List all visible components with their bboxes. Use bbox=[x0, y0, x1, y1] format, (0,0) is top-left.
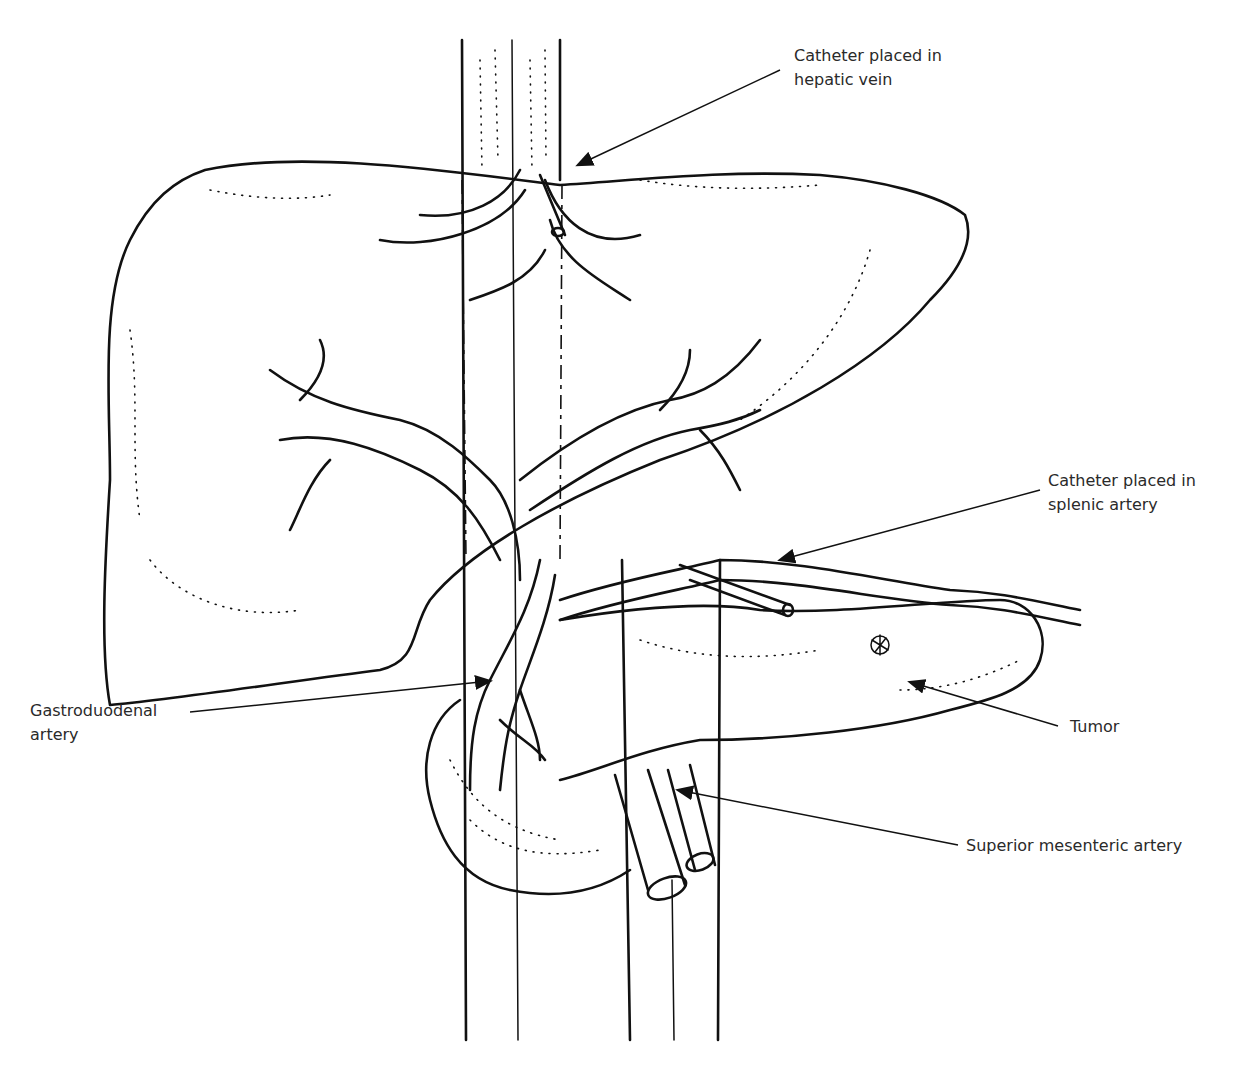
duodenum bbox=[426, 700, 630, 894]
label-superior-mesenteric-artery: Superior mesenteric artery bbox=[966, 834, 1182, 858]
splenic-artery bbox=[560, 560, 1080, 625]
gastroduodenal-artery bbox=[470, 560, 555, 790]
leader-hepatic-vein bbox=[578, 70, 780, 165]
leader-tumor bbox=[910, 682, 1058, 726]
aorta bbox=[622, 560, 720, 1040]
label-hepatic-vein-catheter: Catheter placed in hepatic vein bbox=[794, 44, 942, 92]
pancreas bbox=[560, 600, 1043, 780]
label-tumor: Tumor bbox=[1070, 715, 1119, 739]
hepatic-veins bbox=[380, 170, 640, 300]
label-splenic-artery-catheter: Catheter placed in splenic artery bbox=[1048, 469, 1196, 517]
leader-splenic-artery bbox=[780, 490, 1040, 560]
label-gastroduodenal-artery: Gastroduodenal artery bbox=[30, 699, 157, 747]
liver bbox=[104, 162, 968, 705]
superior-mesenteric-artery bbox=[615, 765, 716, 904]
leader-gastroduodenal-artery bbox=[190, 681, 490, 712]
anatomy-illustration bbox=[0, 0, 1248, 1066]
